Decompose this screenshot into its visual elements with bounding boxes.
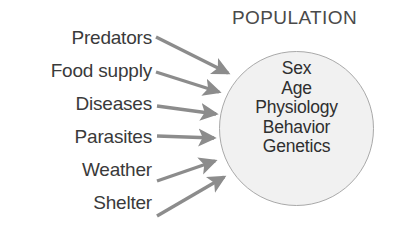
arrow-shelter (157, 177, 224, 216)
population-attribute: Sex (219, 59, 374, 79)
population-attribute: Physiology (219, 98, 374, 118)
factor-label: Food supply (0, 61, 152, 80)
population-attribute-list: SexAgePhysiologyBehaviorGenetics (219, 59, 374, 157)
population-attribute: Genetics (219, 137, 374, 157)
arrow-predators (156, 37, 228, 73)
arrow-diseases (157, 106, 216, 114)
population-attribute: Behavior (219, 118, 374, 138)
factor-label: Diseases (0, 94, 152, 113)
arrow-weather (157, 161, 215, 181)
population-factors-diagram: PredatorsFood supplyDiseasesParasitesWea… (0, 0, 394, 235)
factor-label: Weather (0, 160, 152, 179)
factor-label-list: PredatorsFood supplyDiseasesParasitesWea… (0, 0, 156, 235)
arrow-parasites (157, 136, 214, 138)
population-attribute: Age (219, 79, 374, 99)
factor-label: Parasites (0, 127, 152, 146)
population-title: POPULATION (232, 7, 357, 29)
arrow-food-supply (156, 72, 219, 92)
factor-label: Shelter (0, 193, 152, 212)
factor-label: Predators (0, 28, 152, 47)
